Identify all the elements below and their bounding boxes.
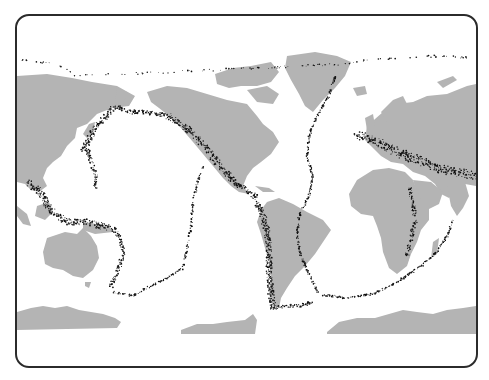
earthquake-dot <box>265 234 266 235</box>
earthquake-dot <box>307 64 309 66</box>
earthquake-dot <box>409 193 410 194</box>
earthquake-dot <box>233 180 235 182</box>
earthquake-dot <box>399 157 400 158</box>
earthquake-dot <box>191 133 192 134</box>
earthquake-dot <box>27 185 28 186</box>
earthquake-dot <box>256 196 257 197</box>
earthquake-dot <box>465 56 467 58</box>
earthquake-dot <box>200 141 202 143</box>
earthquake-dot <box>267 282 268 283</box>
earthquake-dot <box>163 279 164 280</box>
earthquake-dot <box>94 181 95 182</box>
earthquake-dot <box>44 204 45 205</box>
earthquake-dot <box>304 205 305 206</box>
earthquake-dot <box>57 213 58 214</box>
earthquake-dot <box>446 170 447 171</box>
earthquake-dot <box>257 207 258 208</box>
earthquake-dot <box>451 224 452 225</box>
earthquake-dot <box>396 281 398 283</box>
earthquake-dot <box>256 194 258 196</box>
earthquake-dot <box>414 222 416 224</box>
earthquake-dot <box>440 167 441 168</box>
earthquake-dot <box>45 208 46 209</box>
earthquake-dot <box>105 118 106 119</box>
earthquake-dot <box>266 241 267 242</box>
earthquake-dot <box>273 290 274 291</box>
earthquake-dot <box>407 248 408 249</box>
earthquake-dot <box>206 152 207 153</box>
earthquake-dot <box>66 69 67 70</box>
earthquake-dot <box>82 220 83 221</box>
earthquake-dot <box>97 224 98 225</box>
earthquake-dot <box>329 91 331 93</box>
earthquake-dot <box>32 186 33 187</box>
earthquake-dot <box>449 226 451 228</box>
earthquake-dot <box>268 274 269 275</box>
earthquake-dot <box>92 129 93 130</box>
earthquake-dot <box>221 167 223 169</box>
earthquake-dot <box>200 136 201 137</box>
earthquake-dot <box>47 204 48 205</box>
earthquake-dot <box>270 239 271 240</box>
earthquake-dot <box>83 223 84 224</box>
earthquake-dot <box>191 71 193 73</box>
earthquake-dot <box>185 129 186 130</box>
world-seismicity-map <box>17 16 476 366</box>
earthquake-dot <box>152 111 153 112</box>
earthquake-dot <box>40 197 41 198</box>
earthquake-dot <box>89 225 90 226</box>
earthquake-dot <box>398 152 400 154</box>
earthquake-dot <box>264 214 265 215</box>
earthquake-dot <box>375 292 376 293</box>
earthquake-dot <box>410 230 412 232</box>
earthquake-dot <box>88 154 89 155</box>
earthquake-dot <box>132 113 133 114</box>
earthquake-dot <box>189 233 190 234</box>
earthquake-dot <box>308 194 309 195</box>
earthquake-dot <box>312 174 314 176</box>
earthquake-dot <box>119 244 120 245</box>
earthquake-dot <box>470 178 471 179</box>
earthquake-dot <box>349 63 351 65</box>
earthquake-dot <box>354 296 355 297</box>
earthquake-dot <box>90 130 92 132</box>
earthquake-dot <box>180 268 181 269</box>
earthquake-dot <box>73 224 74 225</box>
earthquake-dot <box>219 166 220 167</box>
earthquake-dot <box>416 154 418 156</box>
earthquake-dot <box>89 150 91 152</box>
earthquake-dot <box>266 243 267 244</box>
earthquake-dot <box>162 112 163 113</box>
earthquake-dot <box>446 56 447 57</box>
earthquake-dot <box>321 107 323 109</box>
earthquake-dot <box>188 128 190 130</box>
earthquake-dot <box>309 196 310 197</box>
earthquake-dot <box>348 297 349 298</box>
earthquake-dot <box>184 254 185 255</box>
earthquake-dot <box>386 143 388 145</box>
earthquake-dot <box>268 68 269 69</box>
earthquake-dot <box>453 167 455 169</box>
earthquake-dot <box>372 140 374 142</box>
earthquake-dot <box>364 136 365 137</box>
earthquake-dot <box>268 278 269 279</box>
earthquake-dot <box>185 257 187 259</box>
earthquake-dot <box>134 293 135 294</box>
earthquake-dot <box>258 67 260 69</box>
earthquake-dot <box>270 245 271 246</box>
earthquake-dot <box>414 227 416 229</box>
earthquake-dot <box>96 226 97 227</box>
earthquake-dot <box>255 199 256 200</box>
earthquake-dot <box>382 290 383 291</box>
earthquake-dot <box>274 67 275 68</box>
earthquake-dot <box>122 245 124 247</box>
earthquake-dot <box>80 149 82 151</box>
earthquake-dot <box>66 224 68 226</box>
earthquake-dot <box>332 81 333 82</box>
earthquake-dot <box>425 158 427 160</box>
earthquake-dot <box>67 220 68 221</box>
earthquake-dot <box>421 161 422 162</box>
earthquake-dot <box>48 210 49 211</box>
earthquake-dot <box>449 228 450 229</box>
earthquake-dot <box>30 188 32 190</box>
